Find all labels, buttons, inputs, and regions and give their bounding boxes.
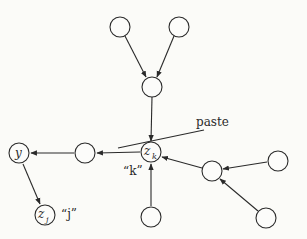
nodes — [9, 17, 288, 228]
edge-top-right-to-mid — [157, 36, 174, 77]
node-bottom — [141, 207, 161, 227]
node-mid-top — [142, 77, 162, 97]
edge-far-right-upper-to-right-mid — [223, 162, 267, 169]
edge-far-right-lower-to-right-mid — [220, 179, 258, 211]
edge-top-left-to-mid — [125, 36, 146, 77]
k-quote-label: “k” — [123, 164, 143, 178]
node-top-right — [169, 17, 189, 37]
j-quote-label: “j” — [61, 207, 77, 221]
edge-mid-to-zk — [151, 97, 152, 141]
label-zj: z — [37, 207, 45, 221]
edge-zk-to-left — [97, 152, 140, 153]
edge-right-mid-to-zk — [162, 157, 202, 168]
label-zk-sub: k — [152, 152, 157, 161]
edge-y-to-zj — [23, 164, 40, 204]
node-top-left — [110, 17, 130, 37]
graph-diagram: y z k z j paste “k” “j” — [0, 0, 307, 239]
edges — [23, 36, 267, 211]
node-right-mid — [202, 161, 222, 181]
node-left — [75, 143, 95, 163]
paste-line — [118, 130, 204, 148]
node-far-right-lower — [256, 208, 276, 228]
label-zk: z — [143, 144, 151, 158]
node-far-right-upper — [268, 151, 288, 171]
label-y: y — [14, 146, 22, 160]
paste-label: paste — [196, 115, 229, 129]
